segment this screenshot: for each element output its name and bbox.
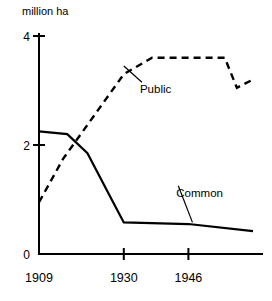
y-tick-label: 2 xyxy=(23,139,30,153)
chart-container: million ha 024 190919301946 PublicCommon xyxy=(0,0,272,301)
x-tick-label: 1930 xyxy=(110,271,138,285)
line-chart: million ha 024 190919301946 PublicCommon xyxy=(0,0,272,301)
y-axis-title: million ha xyxy=(22,5,69,17)
x-axis-tick-labels: 190919301946 xyxy=(25,271,202,285)
y-tick-label: 0 xyxy=(23,248,30,262)
x-tick-label: 1909 xyxy=(25,271,53,285)
series-label: Public xyxy=(140,83,172,95)
series-label: Common xyxy=(176,187,223,199)
x-tick-label: 1946 xyxy=(174,271,202,285)
chart-background xyxy=(0,0,272,301)
y-tick-label: 4 xyxy=(23,30,30,44)
